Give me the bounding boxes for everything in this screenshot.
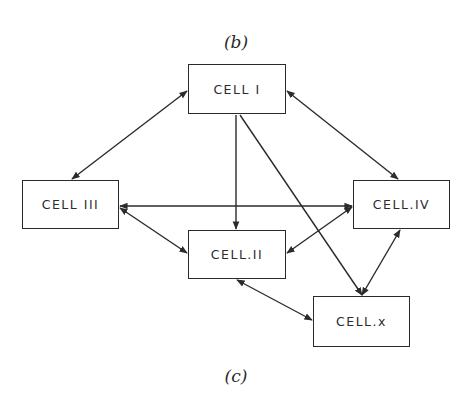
cell-3-box: CELL III: [22, 180, 119, 229]
cell-x-box: CELL.x: [313, 296, 410, 347]
caption-c: (c): [225, 366, 248, 386]
cell-2-label: CELL.II: [211, 247, 263, 262]
arrow-cell1-cell3: [72, 91, 187, 179]
cell-2-box: CELL.II: [188, 230, 286, 279]
arrow-cell1-cell4: [287, 91, 398, 179]
cell-4-box: CELL.IV: [353, 180, 450, 229]
arrow-cell2-cellx: [237, 280, 312, 320]
cell-1-label: CELL I: [213, 82, 260, 97]
cell-x-label: CELL.x: [336, 314, 387, 329]
cell-4-label: CELL.IV: [373, 197, 430, 212]
arrow-cell4-cellx: [362, 230, 400, 295]
cell-3-label: CELL III: [42, 197, 100, 212]
cell-1-box: CELL I: [188, 64, 286, 114]
arrow-cell2-cell4: [287, 207, 352, 253]
arrow-cell3-cell2: [120, 208, 187, 253]
